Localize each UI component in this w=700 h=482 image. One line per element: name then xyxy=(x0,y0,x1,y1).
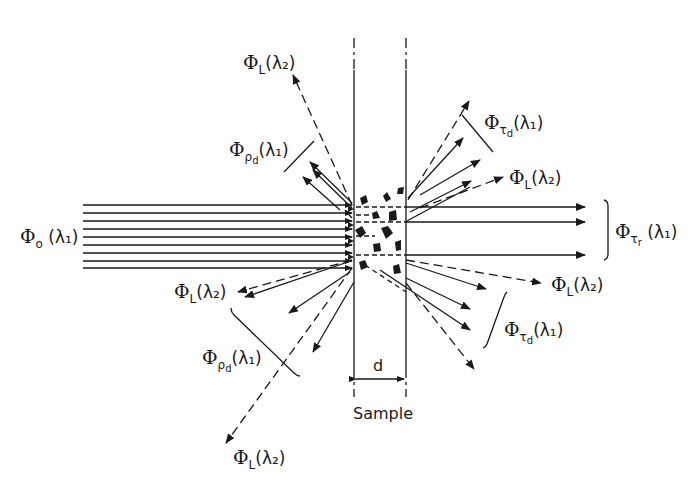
luminescence-bottom-left-label: ΦL(λ₂) xyxy=(233,448,285,471)
luminescence-mid-left-label: ΦL(λ₂) xyxy=(174,282,226,305)
luminescence-lower-right-label: ΦL(λ₂) xyxy=(551,275,603,298)
diffuse-reflect-upper-label: Φρd(λ₁) xyxy=(229,140,289,166)
sample-label: Sample xyxy=(353,404,413,423)
diffuse-transmit-lower-label: Φτd(λ₁) xyxy=(504,320,563,346)
lower-right-scatter xyxy=(365,260,541,369)
luminescence-top-left-label: ΦL(λ₂) xyxy=(243,53,295,76)
transmitted-regular-label: Φτr (λ₁) xyxy=(615,222,677,248)
incident-beam xyxy=(83,205,352,268)
transmitted-regular-brace xyxy=(604,200,608,260)
diffuse-reflect-lower-label: Φρd(λ₁) xyxy=(202,348,262,374)
transmitted-regular-beams xyxy=(406,207,585,255)
thickness-label: d xyxy=(373,356,383,375)
luminescence-upper-right-label: ΦL(λ₂) xyxy=(509,168,561,191)
sample-particles xyxy=(348,187,404,274)
radiant-flux-diagram xyxy=(0,0,700,482)
diffuse-transmit-upper-label: Φτd(λ₁) xyxy=(484,113,543,139)
upper-left-reflection xyxy=(293,75,352,218)
incident-flux-label: Φo (λ₁) xyxy=(20,227,78,250)
